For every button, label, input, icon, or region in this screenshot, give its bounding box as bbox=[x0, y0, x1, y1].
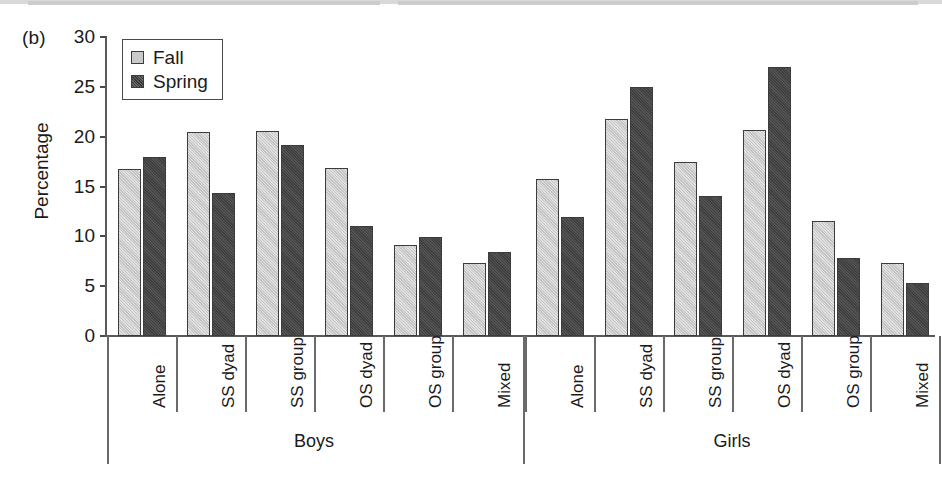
bar-fall-5 bbox=[463, 263, 486, 336]
category-label: SS group bbox=[288, 337, 308, 408]
legend-item-fall: Fall bbox=[131, 45, 208, 69]
bar-spring-2 bbox=[281, 145, 304, 336]
bar-fall-9 bbox=[743, 130, 766, 336]
bar-spring-1 bbox=[212, 193, 235, 336]
legend-label-fall: Fall bbox=[153, 48, 184, 67]
category-divider bbox=[594, 336, 596, 412]
bar-spring-3 bbox=[350, 226, 373, 336]
legend-item-spring: Spring bbox=[131, 69, 208, 93]
category-label: Mixed bbox=[495, 363, 515, 408]
category-label: OS dyad bbox=[357, 342, 377, 408]
group-label: Girls bbox=[525, 431, 939, 452]
bar-spring-9 bbox=[768, 67, 791, 336]
bar-chart-figure: (b) Percentage 051015202530 Fall Spring … bbox=[0, 0, 942, 501]
legend-swatch-spring-icon bbox=[131, 75, 144, 88]
legend-swatch-fall-icon bbox=[131, 51, 144, 64]
y-axis-title: Percentage bbox=[31, 91, 53, 251]
category-label: SS dyad bbox=[219, 344, 239, 408]
category-label: OS group bbox=[844, 335, 864, 408]
category-divider bbox=[663, 336, 665, 412]
category-divider bbox=[245, 336, 247, 412]
group-label: Boys bbox=[107, 431, 521, 452]
bar-spring-0 bbox=[143, 157, 166, 336]
bar-spring-10 bbox=[837, 258, 860, 336]
y-tick-label: 10 bbox=[55, 226, 95, 245]
y-tick-label: 25 bbox=[55, 77, 95, 96]
plot-area bbox=[107, 37, 935, 336]
category-label: OS dyad bbox=[775, 342, 795, 408]
y-tick-label: 20 bbox=[55, 127, 95, 146]
y-tick-label: 15 bbox=[55, 177, 95, 196]
bar-spring-5 bbox=[488, 252, 511, 336]
category-divider bbox=[525, 336, 527, 412]
bar-fall-7 bbox=[605, 119, 628, 336]
bar-fall-8 bbox=[674, 162, 697, 336]
y-tick-label: 5 bbox=[55, 276, 95, 295]
group-divider bbox=[939, 336, 941, 464]
category-divider bbox=[732, 336, 734, 412]
bar-spring-8 bbox=[699, 196, 722, 336]
category-label: Alone bbox=[568, 365, 588, 408]
category-label: SS group bbox=[706, 337, 726, 408]
bar-fall-1 bbox=[187, 132, 210, 336]
category-divider bbox=[452, 336, 454, 412]
category-divider bbox=[870, 336, 872, 412]
category-label: OS group bbox=[426, 335, 446, 408]
y-tick-label: 30 bbox=[55, 27, 95, 46]
category-label: SS dyad bbox=[637, 344, 657, 408]
category-axis-zone: AloneSS dyadSS groupOS dyadOS groupMixed… bbox=[0, 336, 942, 501]
legend-label-spring: Spring bbox=[153, 72, 208, 91]
bar-fall-3 bbox=[325, 168, 348, 336]
category-divider bbox=[383, 336, 385, 412]
bar-fall-11 bbox=[881, 263, 904, 336]
bar-fall-4 bbox=[394, 245, 417, 336]
bar-spring-4 bbox=[419, 237, 442, 336]
category-label: Alone bbox=[150, 365, 170, 408]
category-divider bbox=[314, 336, 316, 412]
category-label: Mixed bbox=[913, 363, 933, 408]
bar-spring-11 bbox=[906, 283, 929, 336]
chart-legend: Fall Spring bbox=[122, 39, 223, 100]
bar-fall-0 bbox=[118, 169, 141, 336]
category-divider bbox=[176, 336, 178, 412]
bar-fall-10 bbox=[812, 221, 835, 336]
category-divider bbox=[801, 336, 803, 412]
bar-fall-6 bbox=[536, 179, 559, 336]
bar-spring-6 bbox=[561, 217, 584, 336]
panel-label: (b) bbox=[22, 27, 46, 49]
bar-fall-2 bbox=[256, 131, 279, 336]
bar-spring-7 bbox=[630, 87, 653, 336]
